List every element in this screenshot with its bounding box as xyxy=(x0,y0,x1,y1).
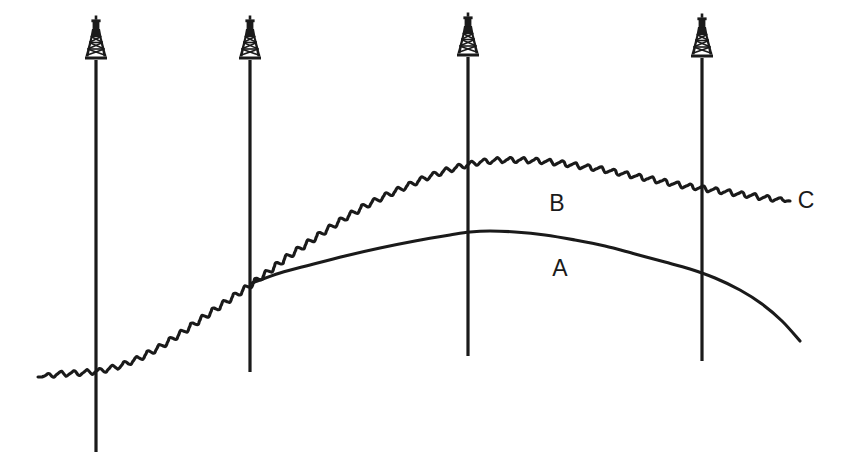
derrick-mast-tip xyxy=(95,16,98,20)
horizon-label-b: B xyxy=(549,190,564,216)
derrick-upper-mast xyxy=(93,22,100,29)
well-3[interactable] xyxy=(457,13,479,357)
horizons-group xyxy=(38,157,800,377)
derrick-crown-block xyxy=(91,19,100,22)
derrick-crown-block xyxy=(697,17,706,20)
derrick-crown-block xyxy=(245,19,254,22)
derrick-mast-section xyxy=(463,26,474,34)
derrick-mast-section xyxy=(245,29,256,37)
derrick-base-sill xyxy=(457,54,479,57)
derrick-mast-tip xyxy=(467,13,470,17)
well-1-derrick-icon[interactable] xyxy=(85,16,107,60)
derrick-upper-mast xyxy=(465,19,472,26)
derrick-mast-tip xyxy=(249,16,252,20)
well-1[interactable] xyxy=(85,16,107,453)
wells-group xyxy=(85,13,713,453)
well-3-derrick-icon[interactable] xyxy=(457,13,479,57)
derrick-crown-block xyxy=(463,16,472,19)
well-4-derrick-icon[interactable] xyxy=(691,14,713,58)
horizon-label-c: C xyxy=(798,187,815,213)
derrick-mast-tip xyxy=(701,14,704,18)
derrick-base-sill xyxy=(691,55,713,58)
derrick-base-sill xyxy=(239,57,261,60)
cross-section-canvas: BAC xyxy=(0,0,850,473)
cross-section-figure: BAC xyxy=(0,0,850,473)
horizon-label-a: A xyxy=(552,255,568,281)
well-2-derrick-icon[interactable] xyxy=(239,16,261,60)
horizon-c[interactable] xyxy=(38,157,790,377)
derrick-mast-section xyxy=(91,29,102,37)
well-2[interactable] xyxy=(239,16,261,373)
derrick-mast-section xyxy=(697,27,708,35)
derrick-upper-mast xyxy=(699,20,706,27)
horizon-a[interactable] xyxy=(252,231,800,341)
derrick-base-sill xyxy=(85,57,107,60)
derrick-upper-mast xyxy=(247,22,254,29)
